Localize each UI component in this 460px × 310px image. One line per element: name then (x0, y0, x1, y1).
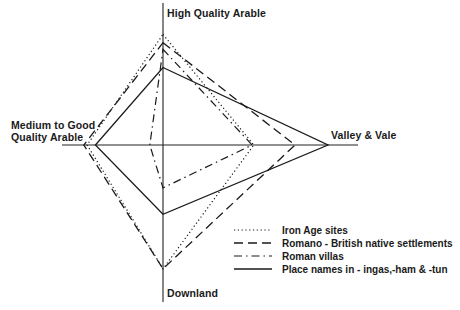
legend-label-place-names: Place names in - ingas,-ham & -tun (282, 264, 448, 275)
axis-label-bottom: Downland (167, 287, 218, 299)
axis-label-left-line1: Medium to Good (11, 119, 95, 131)
axis-label-right: Valley & Vale (331, 129, 397, 141)
legend-label-roman-villas: Roman villas (282, 251, 344, 262)
legend: Iron Age sites Romano - British native s… (234, 225, 453, 275)
radar-diagram: High Quality Arable Valley & Vale Downla… (0, 0, 460, 310)
series-polygon-iron-age-sites (87, 34, 254, 268)
axis-label-left-line2: Quality Arable (11, 131, 83, 143)
series-polygon-roman-villas (150, 49, 252, 188)
series-polygon-romano-british-native-settlements (84, 43, 295, 269)
axis-label-top: High Quality Arable (167, 7, 266, 19)
legend-label-iron-age: Iron Age sites (282, 225, 348, 236)
series-polygon-place-names-in-ingas-ham-tun (95, 68, 328, 215)
legend-label-romano-british: Romano - British native settlements (282, 238, 453, 249)
